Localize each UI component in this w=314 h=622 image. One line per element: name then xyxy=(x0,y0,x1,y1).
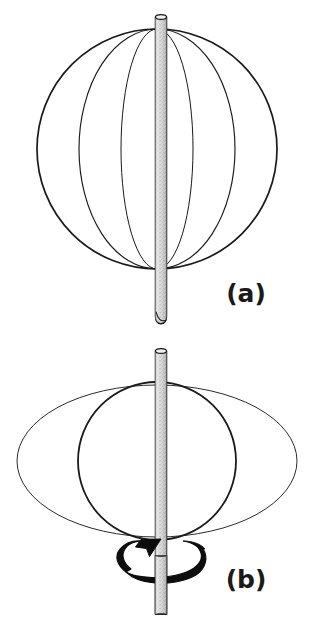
panel-a-label: (a) xyxy=(226,279,266,308)
physics-figure: (a) xyxy=(0,0,314,622)
panel-b-label: (b) xyxy=(226,565,267,594)
figure-root: (a) xyxy=(0,0,314,622)
panel-b-rod-foreground-shading xyxy=(156,556,167,614)
panel-a-rod xyxy=(156,15,167,324)
panel-b-rod-top-cap xyxy=(156,349,167,354)
panel-a-rod-top-cap xyxy=(156,15,167,20)
panel-b-rod-foreground xyxy=(156,556,167,614)
panel-a-rod-shading xyxy=(156,16,167,324)
